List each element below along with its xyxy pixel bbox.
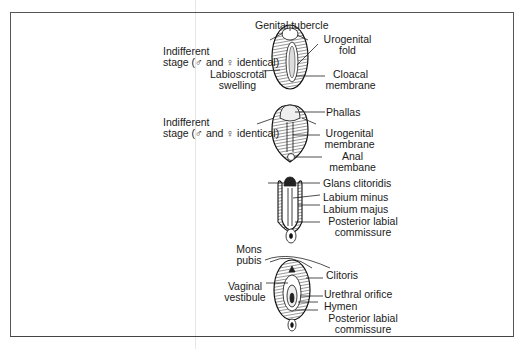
label-urethral-orifice: Urethral orifice bbox=[324, 289, 392, 300]
label-labioscrotal-swelling: Labioscrotal swelling bbox=[210, 69, 265, 91]
label-genital-tubercle: Genital tubercle bbox=[255, 20, 329, 31]
label-cloacal-line2: membrane bbox=[323, 80, 378, 91]
label-indifferent-stage-2-line2: stage (♂ and ♀ identical) bbox=[163, 128, 279, 139]
label-vestibule-line2: vestibule bbox=[221, 292, 269, 303]
label-clitoris: Clitoris bbox=[326, 270, 358, 281]
label-posterior-1-line2: commissure bbox=[322, 227, 404, 238]
female-intermediate-drawing bbox=[268, 177, 320, 243]
label-anal-line2: membane bbox=[325, 162, 380, 173]
label-labium-minus: Labium minus bbox=[323, 192, 388, 203]
label-urogenital-fold: Urogenital fold bbox=[320, 34, 375, 56]
label-posterior-labial-commissure-1: Posterior labial commissure bbox=[322, 216, 404, 238]
label-labium-majus: Labium majus bbox=[323, 204, 388, 215]
label-indifferent-stage-1-line2: stage (♂ and ♀ identical) bbox=[163, 57, 279, 68]
female-final-drawing bbox=[265, 256, 330, 331]
label-urogenital-membrane-line2: membrane bbox=[322, 139, 377, 150]
label-glans-clitoridis: Glans clitoridis bbox=[323, 178, 391, 189]
label-posterior-labial-commissure-2: Posterior labial commissure bbox=[322, 313, 404, 335]
label-phallas: Phallas bbox=[326, 107, 360, 118]
label-vaginal-vestibule: Vaginal vestibule bbox=[221, 281, 269, 303]
label-cloacal-membrane: Cloacal membrane bbox=[323, 69, 378, 91]
label-posterior-2-line2: commissure bbox=[322, 324, 404, 335]
label-urogenital-fold-line2: fold bbox=[320, 45, 375, 56]
label-mons-line2: pubis bbox=[230, 255, 268, 266]
label-anal-membrane: Anal membane bbox=[325, 151, 380, 173]
label-mons-pubis: Mons pubis bbox=[230, 244, 268, 266]
label-urogenital-membrane: Urogenital membrane bbox=[322, 128, 377, 150]
label-hymen: Hymen bbox=[324, 301, 357, 312]
label-labioscrotal-line2: swelling bbox=[210, 80, 265, 91]
